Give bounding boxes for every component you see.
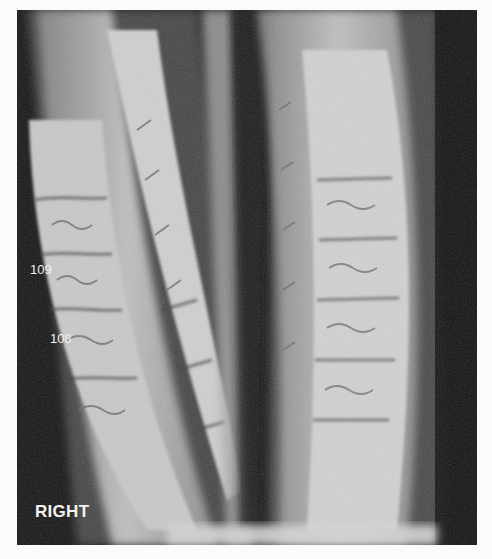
- side-label: RIGHT: [35, 502, 89, 522]
- radiograph-graphic: [17, 10, 477, 545]
- tooth-label-109: 109: [30, 262, 52, 277]
- tooth-label-108: 108: [50, 331, 72, 346]
- radiograph-image: 109 108 RIGHT: [17, 10, 477, 545]
